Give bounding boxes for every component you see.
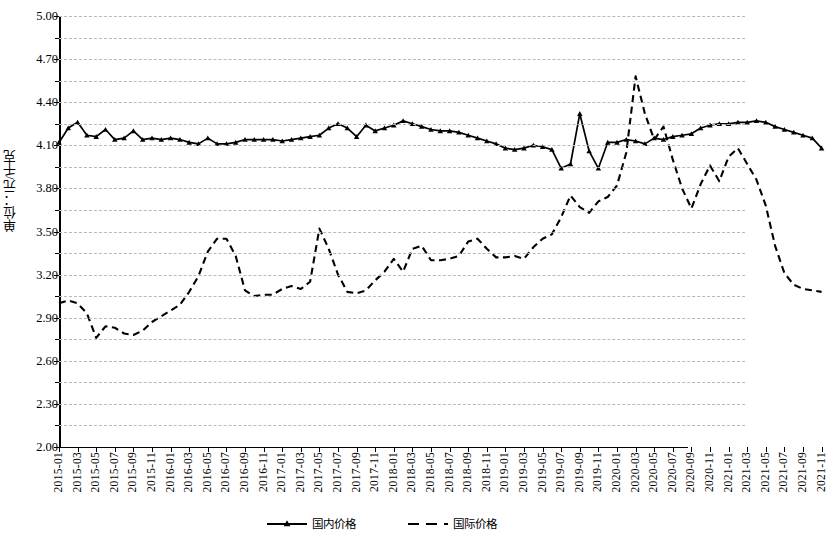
y-axis-minor-tick xyxy=(55,167,59,168)
y-axis-minor-tick xyxy=(55,124,59,125)
x-axis-tick-label: 2016-09 xyxy=(239,452,250,492)
legend-item-international: 国际价格 xyxy=(408,518,497,530)
y-axis-tick-label: 2.00 xyxy=(18,441,58,453)
y-axis-minor-tick xyxy=(55,296,59,297)
x-axis-tick-label: 2017-11 xyxy=(369,452,380,492)
gridline xyxy=(59,361,745,362)
x-axis-tick-label: 2019-03 xyxy=(518,452,529,492)
gridline xyxy=(59,102,745,103)
x-axis-tick-label: 2017-09 xyxy=(351,452,362,492)
y-axis-minor-tick xyxy=(55,382,59,383)
solid-line-triangle-marker-icon xyxy=(267,519,307,529)
x-axis-tick-label: 2021-05 xyxy=(760,452,771,492)
minor-gridline xyxy=(59,167,745,168)
gridline xyxy=(59,318,745,319)
gridline xyxy=(59,275,745,276)
x-axis-tick-label: 2018-03 xyxy=(406,452,417,492)
data-point-marker xyxy=(586,148,591,153)
x-axis-tick-label: 2021-03 xyxy=(741,452,752,492)
x-axis-tick-label: 2021-07 xyxy=(778,452,789,492)
x-axis-tick-label: 2016-03 xyxy=(183,452,194,492)
series-line-domestic xyxy=(59,114,822,169)
series-line-international xyxy=(59,76,822,337)
minor-gridline xyxy=(59,253,745,254)
y-axis-tick-label: 3.80 xyxy=(18,182,58,194)
x-axis-tick-label: 2018-11 xyxy=(481,452,492,492)
minor-gridline xyxy=(59,296,745,297)
y-axis-minor-tick xyxy=(55,253,59,254)
x-axis-tick-label: 2019-07 xyxy=(555,452,566,492)
x-axis-tick-label: 2019-01 xyxy=(499,452,510,492)
x-axis-tick-label: 2020-01 xyxy=(611,452,622,492)
x-axis-tick-label: 2020-09 xyxy=(685,452,696,492)
x-axis-tick-label: 2018-07 xyxy=(444,452,455,492)
x-axis-tick-label: 2021-11 xyxy=(816,452,827,492)
legend-item-domestic: 国内价格 xyxy=(267,518,356,530)
x-axis-tick-label: 2015-07 xyxy=(109,452,120,492)
x-axis-tick-label: 2018-01 xyxy=(388,452,399,492)
data-point-marker xyxy=(205,136,210,141)
x-axis-tick-label: 2017-05 xyxy=(313,452,324,492)
x-axis-tick-label: 2016-01 xyxy=(165,452,176,492)
x-axis-tick-label: 2015-11 xyxy=(146,452,157,492)
data-point-marker xyxy=(131,128,136,133)
y-axis-tick-label: 5.00 xyxy=(18,10,58,22)
y-axis-tick-label: 3.20 xyxy=(18,269,58,281)
x-axis-tick-label: 2015-09 xyxy=(127,452,138,492)
x-axis-tick-label: 2015-03 xyxy=(72,452,83,492)
y-axis-tick-label: 2.60 xyxy=(18,355,58,367)
minor-gridline xyxy=(59,124,745,125)
legend-label-international: 国际价格 xyxy=(453,518,497,530)
data-point-marker xyxy=(577,111,582,116)
x-axis-tick-label: 2020-05 xyxy=(648,452,659,492)
x-axis-tick-label: 2015-01 xyxy=(53,452,64,492)
minor-gridline xyxy=(59,339,745,340)
x-axis-tick-label: 2020-07 xyxy=(667,452,678,492)
x-axis-tick-label: 2016-11 xyxy=(258,452,269,492)
minor-gridline xyxy=(59,382,745,383)
x-axis-tick-label: 2020-03 xyxy=(630,452,641,492)
gridline xyxy=(59,59,745,60)
y-axis-minor-tick xyxy=(55,38,59,39)
x-axis-tick-label: 2016-07 xyxy=(220,452,231,492)
x-axis-tick-label: 2020-11 xyxy=(704,452,715,492)
minor-gridline xyxy=(59,81,745,82)
x-axis-tick-label: 2017-01 xyxy=(276,452,287,492)
y-axis-tick-label: 4.70 xyxy=(18,53,58,65)
x-axis-tick-label: 2015-05 xyxy=(90,452,101,492)
minor-gridline xyxy=(59,38,745,39)
gridline xyxy=(59,188,745,189)
y-axis-tick-label: 2.30 xyxy=(18,398,58,410)
x-axis-tick-label: 2017-07 xyxy=(332,452,343,492)
plot-area xyxy=(59,16,745,447)
x-axis-tick-label: 2017-03 xyxy=(295,452,306,492)
y-axis-tick-label: 3.50 xyxy=(18,226,58,238)
gridline xyxy=(59,232,745,233)
y-axis-tick-label: 4.10 xyxy=(18,139,58,151)
gridline xyxy=(59,404,745,405)
data-point-marker xyxy=(103,127,108,132)
y-axis-minor-tick xyxy=(55,210,59,211)
y-axis-minor-tick xyxy=(55,339,59,340)
minor-gridline xyxy=(59,210,745,211)
y-axis-tick-label: 2.90 xyxy=(18,312,58,324)
data-point-marker xyxy=(568,161,573,166)
minor-gridline xyxy=(59,425,745,426)
x-axis-tick-labels: 2015-012015-032015-052015-072015-092015-… xyxy=(59,452,759,522)
y-axis-minor-tick xyxy=(55,425,59,426)
x-axis-tick-label: 2019-09 xyxy=(574,452,585,492)
gridline xyxy=(59,145,745,146)
y-axis-tick-label: 4.40 xyxy=(18,96,58,108)
x-axis-tick-label: 2016-05 xyxy=(202,452,213,492)
legend-label-domestic: 国内价格 xyxy=(312,518,356,530)
x-axis-tick-label: 2019-11 xyxy=(592,452,603,492)
x-axis-tick-label: 2021-01 xyxy=(723,452,734,492)
dashed-line-icon xyxy=(408,519,448,529)
gridline xyxy=(59,16,745,17)
x-axis-tick-label: 2019-05 xyxy=(537,452,548,492)
x-axis-tick-label: 2021-09 xyxy=(797,452,808,492)
chart-legend: 国内价格 国际价格 xyxy=(0,518,764,530)
x-axis-tick-label: 2018-09 xyxy=(462,452,473,492)
x-axis-tick-label: 2018-05 xyxy=(425,452,436,492)
